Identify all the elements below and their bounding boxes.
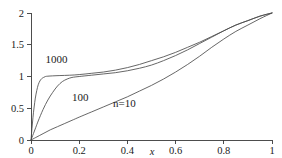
curve-annotations: 1000 100 n=10 (45, 53, 136, 109)
x-tick-label-1: 0.2 (73, 145, 86, 156)
x-tick-label-2: 0.4 (121, 145, 135, 156)
y-tick-label-1: 0.5 (11, 103, 24, 114)
x-tick-label-0: 0 (28, 145, 33, 156)
curve-label-1000: 1000 (45, 53, 68, 65)
curve-label-100: 100 (72, 91, 89, 103)
y-tick-label-4: 2 (19, 8, 24, 19)
x-axis-title: x (149, 146, 155, 157)
x-tick-label-3: 0.6 (169, 145, 182, 156)
x-tick-marks (31, 140, 272, 144)
x-tick-label-4: 0.8 (217, 145, 230, 156)
curve-n-100 (31, 13, 272, 140)
line-chart: 0 0.5 1 1.5 2 0 0.2 0.4 0.6 0.8 1 x 1000… (0, 0, 282, 158)
y-tick-label-3: 1.5 (11, 39, 24, 50)
curve-n-1000 (31, 13, 272, 140)
curve-label-n-10: n=10 (113, 97, 136, 109)
y-tick-label-0: 0 (19, 135, 24, 146)
curve-n-10 (31, 13, 272, 140)
chart-figure: 0 0.5 1 1.5 2 0 0.2 0.4 0.6 0.8 1 x 1000… (0, 0, 282, 158)
x-tick-label-5: 1 (269, 145, 274, 156)
y-tick-marks (27, 13, 31, 140)
y-tick-label-2: 1 (19, 71, 24, 82)
data-curves (31, 13, 272, 140)
